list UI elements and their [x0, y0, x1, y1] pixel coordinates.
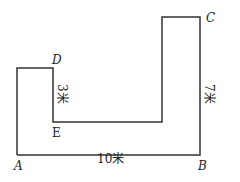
figure-outline — [17, 17, 200, 155]
point-label-b: B — [197, 159, 207, 173]
figure-canvas: D C E A B 10米 3米 7米 — [0, 0, 240, 182]
point-label-d: D — [51, 53, 62, 67]
point-label-a: A — [13, 159, 23, 173]
length-label-de: 3米 — [55, 84, 69, 104]
length-label-ab: 10米 — [97, 152, 124, 166]
point-label-c: C — [206, 11, 215, 25]
point-label-e: E — [52, 126, 61, 140]
length-label-bc: 7米 — [202, 84, 216, 104]
